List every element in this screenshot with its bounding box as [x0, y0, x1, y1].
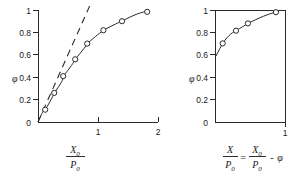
data-point [43, 107, 48, 112]
left-data-curve [38, 12, 147, 122]
data-point [273, 10, 278, 15]
right-ytick-0.6: 0.6 [196, 50, 208, 60]
right-xtick-1: 1 [283, 128, 288, 138]
right-x-axis-title: X P0 = X0 P0 - φ [223, 144, 283, 173]
left-y-ticks [33, 10, 38, 100]
left-ytick-0.6: 0.6 [19, 50, 31, 60]
right-plot-svg: 1 0.8 0.6 0.4 0.2 0 1 φ X [175, 0, 300, 181]
data-point [233, 28, 238, 33]
data-point [101, 28, 106, 33]
left-ytick-0: 0 [26, 118, 31, 128]
data-point [220, 41, 225, 46]
left-x-ticks [98, 117, 158, 122]
left-ytick-1: 1 [26, 6, 31, 16]
left-x-axis-title: X0 P0 [66, 144, 85, 173]
data-point [85, 41, 90, 46]
right-x-title-equals: = [240, 152, 247, 163]
right-x-title-frac1-num: X [226, 144, 234, 155]
left-plot-svg: 1 0.8 0.6 0.4 0.2 0 1 2 [0, 0, 175, 181]
right-ytick-0.4: 0.4 [196, 73, 208, 83]
left-data-markers [43, 9, 150, 112]
right-x-title-frac2-num: X0 [251, 144, 262, 158]
right-x-title-frac2-den: P0 [251, 159, 262, 173]
right-ytick-1: 1 [203, 6, 208, 16]
left-xtick-2: 2 [156, 127, 161, 137]
data-point [145, 9, 150, 14]
data-point [119, 19, 124, 24]
left-axes [38, 10, 158, 122]
right-axes-frame [215, 10, 285, 122]
left-ytick-0.4: 0.4 [19, 73, 31, 83]
data-point [245, 21, 250, 26]
data-point [73, 57, 78, 62]
left-tangent-line [38, 3, 91, 122]
left-y-axis-title: φ [12, 73, 18, 84]
right-ytick-0: 0 [203, 118, 208, 128]
right-ytick-0.2: 0.2 [196, 95, 208, 105]
right-data-curve [216, 12, 276, 56]
figure-container: 1 0.8 0.6 0.4 0.2 0 1 2 [0, 0, 300, 181]
right-x-title-phi: φ [277, 152, 283, 163]
chart-panel-left: 1 0.8 0.6 0.4 0.2 0 1 2 [0, 0, 175, 181]
right-y-ticks [210, 10, 215, 100]
right-x-title-minus: - [270, 152, 273, 163]
right-ytick-0.8: 0.8 [196, 28, 208, 38]
left-xtick-1: 1 [96, 127, 101, 137]
data-point [61, 74, 66, 79]
left-x-axis-denominator: P0 [69, 159, 80, 173]
right-data-markers [220, 10, 278, 46]
right-y-axis-title: φ [189, 73, 195, 84]
data-point [52, 90, 57, 95]
chart-panel-right: 1 0.8 0.6 0.4 0.2 0 1 φ X [175, 0, 300, 181]
left-x-axis-numerator: X0 [69, 144, 80, 158]
left-ytick-0.8: 0.8 [19, 28, 31, 38]
right-x-title-frac1-den: P0 [224, 159, 235, 173]
left-ytick-0.2: 0.2 [19, 95, 31, 105]
